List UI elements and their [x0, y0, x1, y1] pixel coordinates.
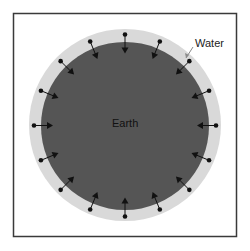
- water-label: Water: [195, 37, 224, 49]
- arrow-origin-dot: [123, 32, 128, 37]
- arrow-origin-dot: [39, 88, 44, 93]
- arrow-origin-dot: [39, 158, 44, 163]
- arrow-origin-dot: [88, 207, 93, 212]
- arrow-origin-dot: [88, 39, 93, 44]
- arrow-origin-dot: [187, 188, 192, 193]
- arrow-origin-dot: [32, 123, 37, 128]
- arrow-origin-dot: [158, 39, 163, 44]
- arrow-origin-dot: [58, 59, 63, 64]
- gravity-diagram: Earth Water: [0, 0, 250, 251]
- arrow-origin-dot: [214, 123, 219, 128]
- arrow-origin-dot: [187, 59, 192, 64]
- arrow-origin-dot: [158, 207, 163, 212]
- arrow-origin-dot: [123, 214, 128, 219]
- arrow-origin-dot: [207, 88, 212, 93]
- arrow-origin-dot: [207, 158, 212, 163]
- earth-label: Earth: [112, 117, 138, 129]
- arrow-origin-dot: [58, 188, 63, 193]
